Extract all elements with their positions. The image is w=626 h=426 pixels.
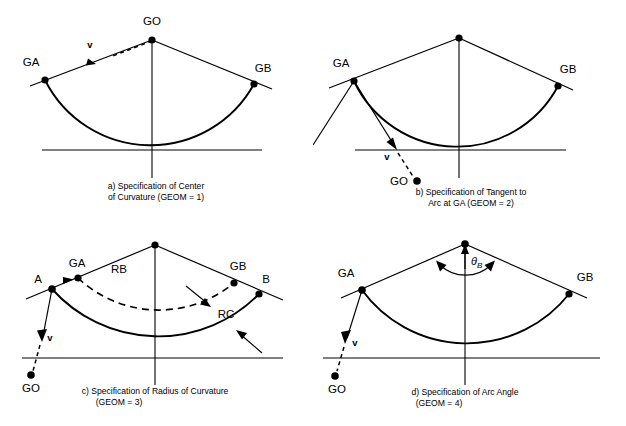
point-ga bbox=[350, 77, 357, 84]
caption-line-1: d) Specification of Arc Angle bbox=[411, 387, 518, 397]
panel-b-tangent-at-ga: GA GB v GO b) Specification of Tangent t… bbox=[313, 0, 626, 213]
label-go: GO bbox=[143, 15, 161, 27]
label-go: GO bbox=[328, 383, 346, 395]
point-ga bbox=[41, 76, 48, 83]
caption-line-1: a) Specification of Center bbox=[108, 181, 205, 191]
caption-line-2: (GEOM = 4) bbox=[416, 398, 463, 408]
arc-geometry-figure: GO GA GB v a) Specification of Center of… bbox=[0, 0, 626, 426]
velocity-dashed-segment bbox=[337, 347, 344, 371]
angle-arrow-right-head bbox=[485, 261, 496, 272]
panel-a-diagram: GO GA GB v a) Specification of Center of… bbox=[0, 0, 313, 213]
angle-arrow-left-head bbox=[436, 261, 447, 272]
caption-line-2: Arc at GA (GEOM = 2) bbox=[428, 198, 514, 208]
point-go bbox=[413, 177, 421, 185]
label-go: GO bbox=[22, 382, 40, 394]
label-gb: GB bbox=[255, 62, 272, 74]
apex-point bbox=[151, 241, 158, 248]
apex-point bbox=[461, 240, 469, 248]
caption-line-1: b) Specification of Tangent to bbox=[416, 187, 527, 197]
point-gb bbox=[565, 290, 572, 297]
caption-line-1: c) Specification of Radius of Curvature bbox=[82, 386, 229, 396]
label-velocity: v bbox=[352, 337, 358, 348]
velocity-arrowhead bbox=[387, 138, 398, 151]
label-theta: θB bbox=[471, 255, 483, 270]
panel-d-arc-angle: GA GB θB v GO d) Specification of Arc An… bbox=[313, 213, 626, 426]
label-gb: GB bbox=[230, 260, 247, 272]
right-radius-line bbox=[459, 38, 573, 90]
rb-arrowhead bbox=[63, 277, 74, 284]
apex-point-go bbox=[148, 36, 155, 43]
label-velocity: v bbox=[47, 332, 53, 343]
velocity-dashed-segment bbox=[110, 41, 152, 57]
point-ga bbox=[74, 274, 81, 281]
tangent-line-seg bbox=[354, 81, 394, 145]
inner-dashed-arc bbox=[78, 278, 234, 310]
panel-a-center-of-curvature: GO GA GB v a) Specification of Center of… bbox=[0, 0, 313, 213]
panel-c-diagram: A GA RB GB B RC v GO c) Specification of… bbox=[0, 213, 313, 426]
theta-subscript: B bbox=[477, 261, 483, 270]
point-ga bbox=[358, 286, 366, 294]
label-ga: GA bbox=[333, 57, 350, 69]
apex-point bbox=[455, 34, 462, 41]
label-ga: GA bbox=[69, 257, 86, 269]
tangent-line bbox=[43, 289, 52, 336]
velocity-arrowhead bbox=[341, 330, 351, 344]
left-radius-line bbox=[26, 245, 155, 299]
panel-b-diagram: GA GB v GO b) Specification of Tangent t… bbox=[313, 0, 626, 213]
main-arc bbox=[45, 80, 254, 145]
label-velocity: v bbox=[87, 39, 93, 50]
label-ga: GA bbox=[338, 267, 355, 279]
velocity-arrowhead bbox=[37, 329, 47, 342]
caption-line-2: (GEOM = 3) bbox=[96, 397, 143, 407]
label-ga: GA bbox=[23, 56, 40, 68]
main-arc bbox=[354, 81, 558, 147]
panel-c-radius-of-curvature: A GA RB GB B RC v GO c) Specification of… bbox=[0, 213, 313, 426]
label-a: A bbox=[34, 273, 42, 285]
label-gb: GB bbox=[560, 63, 577, 75]
point-gb bbox=[554, 82, 561, 89]
label-rb: RB bbox=[111, 263, 127, 275]
point-gb bbox=[230, 279, 237, 286]
tangent-line bbox=[313, 81, 354, 145]
label-b: B bbox=[262, 273, 270, 285]
point-a bbox=[48, 285, 56, 293]
label-rc: RC bbox=[218, 308, 235, 320]
caption-line-2: of Curvature (GEOM = 1) bbox=[108, 192, 204, 202]
point-go bbox=[331, 372, 339, 380]
panel-d-diagram: GA GB θB v GO d) Specification of Arc An… bbox=[313, 213, 626, 426]
label-gb: GB bbox=[577, 271, 594, 283]
point-gb bbox=[250, 80, 257, 87]
point-b bbox=[255, 290, 262, 297]
label-go: GO bbox=[390, 175, 408, 187]
point-go bbox=[27, 371, 35, 379]
label-velocity: v bbox=[384, 151, 390, 162]
